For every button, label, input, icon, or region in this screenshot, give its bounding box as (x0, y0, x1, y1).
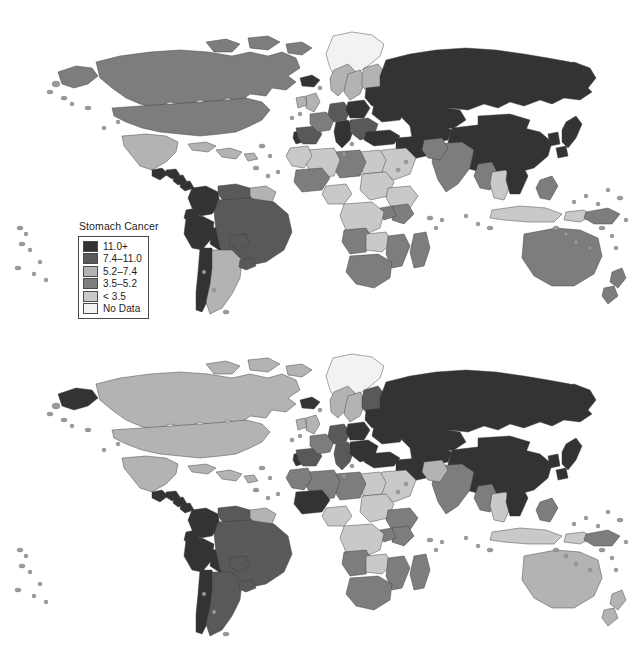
island-speck (564, 554, 568, 558)
island-speck (350, 464, 354, 468)
country-japan (556, 468, 568, 480)
island-speck (599, 548, 605, 552)
island-speck (606, 510, 610, 514)
island-speck (212, 610, 216, 614)
figure-root: Incidence ASR Both Sexes Stomach Cancer … (0, 0, 632, 659)
incidence-legend-title: Stomach Cancer (79, 220, 159, 232)
legend-label: < 3.5 (103, 291, 126, 302)
island-speck (588, 246, 592, 250)
island-speck (624, 540, 628, 544)
island-speck (596, 202, 600, 206)
island-speck (572, 522, 576, 526)
island-speck (584, 194, 588, 198)
island-speck (342, 152, 346, 156)
island-speck (596, 524, 600, 528)
country-korea (548, 454, 560, 468)
mortality-map (0, 344, 632, 644)
island-speck (253, 488, 259, 492)
legend-swatch (83, 266, 98, 277)
island-speck (318, 86, 322, 90)
island-speck (624, 218, 628, 222)
island-speck (38, 582, 42, 586)
island-speck (19, 242, 25, 246)
island-speck (116, 120, 120, 124)
island-speck (574, 240, 578, 244)
island-speck (427, 216, 433, 220)
legend-row: 11.0+ (83, 240, 142, 253)
island-speck (259, 466, 265, 470)
island-speck (28, 570, 32, 574)
legend-row: 7.4–11.0 (83, 253, 142, 266)
island-speck (223, 632, 229, 636)
legend-label: No Data (103, 303, 140, 314)
island-speck (464, 536, 468, 540)
island-speck (116, 442, 120, 446)
panel-incidence: Incidence ASR Both Sexes Stomach Cancer … (0, 0, 632, 329)
island-speck (487, 226, 493, 230)
island-speck (564, 232, 568, 236)
legend-row: No Data (83, 303, 142, 316)
island-speck (266, 496, 270, 500)
island-speck (614, 246, 618, 250)
incidence-legend-box: 11.0+7.4–11.05.2–7.43.5–5.2< 3.5No Data (78, 236, 149, 319)
island-speck (290, 438, 294, 442)
legend-swatch (83, 303, 98, 314)
island-speck (102, 126, 106, 130)
island-speck (202, 592, 206, 596)
island-speck (599, 226, 605, 230)
island-speck (70, 424, 74, 428)
island-speck (61, 418, 67, 422)
island-speck (38, 260, 42, 264)
island-speck (17, 548, 23, 552)
island-speck (464, 214, 468, 218)
island-speck (259, 144, 265, 148)
island-speck (24, 232, 28, 236)
island-speck (404, 482, 408, 486)
island-speck (476, 222, 480, 226)
island-speck (614, 568, 618, 572)
island-speck (318, 408, 322, 412)
island-speck (276, 492, 280, 496)
island-speck (61, 96, 67, 100)
island-speck (553, 226, 559, 230)
island-speck (298, 434, 302, 438)
island-speck (266, 174, 270, 178)
island-speck (298, 112, 302, 116)
legend-label: 3.5–5.2 (103, 278, 137, 289)
island-speck (17, 226, 23, 230)
legend-label: 5.2–7.4 (103, 266, 137, 277)
island-speck (606, 188, 610, 192)
legend-label: 11.0+ (103, 241, 128, 252)
mortality-map-svg (0, 344, 632, 644)
island-speck (19, 564, 25, 568)
island-speck (223, 310, 229, 314)
island-speck (588, 568, 592, 572)
island-speck (476, 544, 480, 548)
island-speck (47, 412, 53, 416)
legend-swatch (83, 291, 98, 302)
island-speck (44, 278, 48, 282)
island-speck (102, 448, 106, 452)
country-korea (548, 132, 560, 146)
island-speck (610, 234, 614, 238)
legend-swatch (83, 253, 98, 264)
island-speck (617, 196, 623, 200)
island-speck (253, 166, 259, 170)
island-speck (487, 548, 493, 552)
legend-label: 7.4–11.0 (103, 253, 142, 264)
island-speck (85, 106, 91, 110)
island-speck (85, 428, 91, 432)
island-speck (396, 490, 400, 494)
island-speck (32, 272, 36, 276)
island-speck (574, 562, 578, 566)
island-speck (572, 200, 576, 204)
island-speck (427, 538, 433, 542)
island-speck (44, 600, 48, 604)
legend-row: 3.5–5.2 (83, 278, 142, 291)
island-speck (440, 540, 444, 544)
island-speck (15, 266, 21, 270)
island-speck (584, 516, 588, 520)
incidence-legend: Stomach Cancer 11.0+7.4–11.05.2–7.43.5–5… (78, 220, 159, 319)
island-speck (32, 594, 36, 598)
island-speck (404, 160, 408, 164)
